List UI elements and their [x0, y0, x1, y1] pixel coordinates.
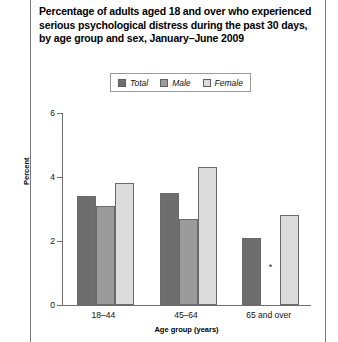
- legend-label-male: Male: [172, 78, 190, 88]
- legend-label-total: Total: [130, 78, 148, 88]
- legend-swatch-total: [118, 79, 126, 87]
- y-tick-label: 2: [35, 236, 55, 246]
- data-suppressed-asterisk: *: [269, 263, 273, 272]
- chart-title: Percentage of adults aged 18 and over wh…: [39, 5, 319, 46]
- bar-male-1: [179, 219, 198, 305]
- legend-swatch-female: [203, 79, 211, 87]
- bar-total-0: [77, 196, 96, 305]
- figure-panel: Percentage of adults aged 18 and over wh…: [0, 0, 338, 342]
- bar-total-2: [242, 238, 261, 305]
- bar-female-0: [115, 183, 134, 305]
- bar-female-1: [198, 167, 217, 305]
- page-rule-right: [325, 0, 326, 342]
- y-tick-label: 0: [35, 300, 55, 310]
- legend-label-female: Female: [215, 78, 243, 88]
- legend-item-male: Male: [160, 78, 190, 88]
- legend-item-total: Total: [118, 78, 148, 88]
- x-group-label: 18–44: [62, 310, 145, 320]
- y-tick-mark: [57, 305, 62, 306]
- x-group-label: 65 and over: [227, 310, 310, 320]
- plot-area: *: [62, 113, 310, 305]
- y-axis-label: Percent: [22, 157, 31, 185]
- bar-total-1: [160, 193, 179, 305]
- x-axis-label: Age group (years): [62, 325, 311, 334]
- x-group-label: 45–64: [145, 310, 228, 320]
- bar-female-2: [280, 215, 299, 305]
- legend-swatch-male: [160, 79, 168, 87]
- x-axis-line: [62, 305, 311, 306]
- legend-item-female: Female: [203, 78, 243, 88]
- y-tick-label: 6: [35, 108, 55, 118]
- y-tick-label: 4: [35, 172, 55, 182]
- chart-legend: Total Male Female: [110, 73, 251, 92]
- bar-male-0: [96, 206, 115, 305]
